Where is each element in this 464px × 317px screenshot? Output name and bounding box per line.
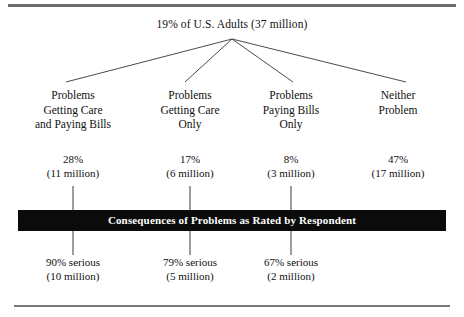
root-node-label: 19% of U.S. Adults (37 million) xyxy=(0,18,464,30)
bottom-divider-rule xyxy=(14,305,450,307)
category-label-4-line-1: Neither xyxy=(318,88,464,103)
stat-percent-4: 47% xyxy=(318,152,464,166)
category-label-4-line-2: Problem xyxy=(318,103,464,118)
stat-block-4: 47% (17 million) xyxy=(318,152,464,180)
category-label-4: Neither Problem xyxy=(318,88,464,117)
top-divider-rule xyxy=(8,4,456,7)
consequences-bar-label: Consequences of Problems as Rated by Res… xyxy=(18,210,446,231)
serious-count-3: (2 million) xyxy=(211,269,371,283)
serious-block-3: 67% serious (2 million) xyxy=(211,255,371,283)
health-problems-flow-diagram: 19% of U.S. Adults (37 million) Problems… xyxy=(0,0,464,317)
serious-percent-3: 67% serious xyxy=(211,255,371,269)
category-label-3-line-3: Only xyxy=(211,117,371,132)
stat-count-4: (17 million) xyxy=(318,166,464,180)
